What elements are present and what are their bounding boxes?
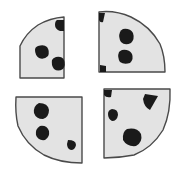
chocolate-chip [52, 57, 65, 71]
chocolate-chip [104, 90, 112, 97]
chocolate-chip [100, 65, 106, 72]
chocolate-chip [36, 126, 49, 140]
cookie-quarters-illustration [0, 0, 188, 178]
chocolate-chip [119, 29, 133, 44]
cookie-figure [0, 0, 188, 178]
